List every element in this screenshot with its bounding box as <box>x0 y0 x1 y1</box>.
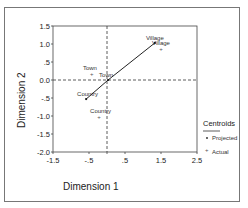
y-tick-label: 0.0 <box>40 76 50 85</box>
legend-projected: Projected <box>212 135 237 141</box>
x-tick-label: 2.5 <box>192 156 202 165</box>
y-tick-label: -1.0 <box>37 112 50 121</box>
actual-point-label: Country <box>90 108 111 114</box>
legend-actual: Actual <box>212 149 229 155</box>
projected-point <box>85 98 87 100</box>
projected-marker-icon <box>206 137 208 139</box>
actual-point-label: Village <box>152 40 171 46</box>
x-axis-title: Dimension 1 <box>63 181 119 192</box>
x-tick-label: .5 <box>122 156 128 165</box>
legend-title: Centroids <box>203 119 235 128</box>
actual-point: + <box>159 46 163 52</box>
y-tick-label: -.5 <box>41 94 50 103</box>
y-tick-label: .5 <box>44 58 50 67</box>
data-points: VillageTownCountry+Village+Town+Country <box>77 35 170 120</box>
y-axis: 1.51.0.50.0-.5-1.0-1.5-2.0 <box>37 22 53 157</box>
x-tick-label: -.5 <box>85 156 94 165</box>
x-axis: -1.5-.5.51.52.5 <box>47 152 203 165</box>
actual-point: + <box>90 71 94 77</box>
y-axis-title: Dimension 2 <box>16 72 27 128</box>
y-tick-label: -1.5 <box>37 130 50 139</box>
x-tick-label: -1.5 <box>47 156 60 165</box>
projected-point-label: Town <box>99 72 113 78</box>
projected-point <box>107 79 109 81</box>
projected-point-label: Country <box>77 91 98 97</box>
legend: Centroids Projected + Actual <box>203 119 237 155</box>
y-tick-label: 1.5 <box>40 22 50 31</box>
actual-point: + <box>97 114 101 120</box>
y-tick-label: 1.0 <box>40 40 50 49</box>
x-tick-label: 1.5 <box>156 156 166 165</box>
chart-svg: 1.51.0.50.0-.5-1.0-1.5-2.0 -1.5-.5.51.52… <box>0 0 248 208</box>
plot-area <box>53 26 197 152</box>
actual-marker-icon: + <box>205 147 209 153</box>
actual-point-label: Town <box>83 65 97 71</box>
